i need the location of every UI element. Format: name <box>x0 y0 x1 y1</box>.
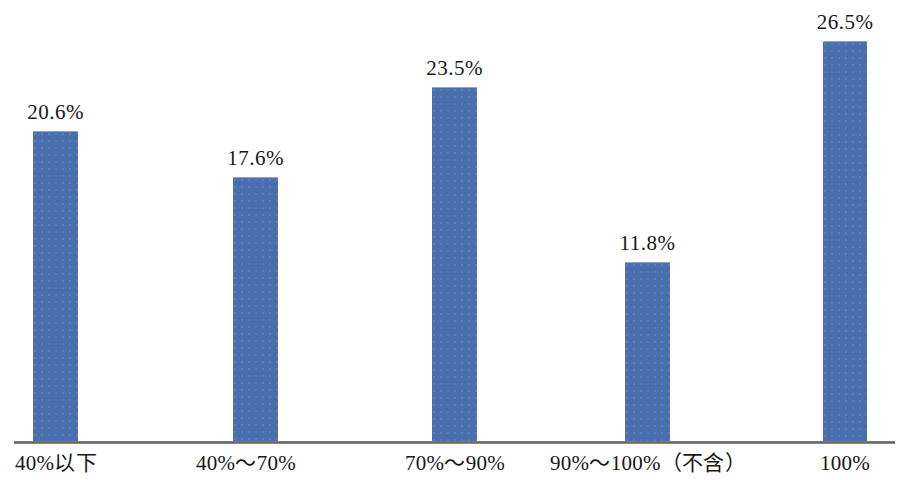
x-axis-tick-label: 90%～100%（不含） <box>550 450 746 476</box>
bar-value-label: 23.5% <box>426 58 483 79</box>
bar <box>432 87 477 443</box>
bar-group: 17.6% <box>233 177 278 443</box>
bar-chart: 20.6% 17.6% 23.5% 11.8% 26.5% 40%以下 40%～… <box>0 0 914 480</box>
x-axis-tick-label: 70%～90% <box>405 450 505 476</box>
bar <box>625 262 670 443</box>
bar <box>233 177 278 443</box>
plot-area: 20.6% 17.6% 23.5% 11.8% 26.5% <box>0 0 914 443</box>
x-axis-tick-label: 100% <box>820 450 870 476</box>
bar-group: 20.6% <box>33 131 78 443</box>
bar-group: 23.5% <box>432 87 477 443</box>
bar-value-label: 26.5% <box>817 12 874 33</box>
bar <box>823 41 867 443</box>
x-axis-tick-label: 40%以下 <box>15 450 97 476</box>
bar-group: 11.8% <box>625 262 670 443</box>
bar-value-label: 20.6% <box>27 102 84 123</box>
x-axis-tick-label: 40%～70% <box>196 450 296 476</box>
bar-group: 26.5% <box>823 41 867 443</box>
bar-value-label: 17.6% <box>227 148 284 169</box>
bar <box>33 131 78 443</box>
x-axis-line <box>14 441 895 444</box>
bar-value-label: 11.8% <box>620 233 676 254</box>
x-axis-tick-labels: 40%以下 40%～70% 70%～90% 90%～100%（不含） 100% <box>0 450 914 480</box>
